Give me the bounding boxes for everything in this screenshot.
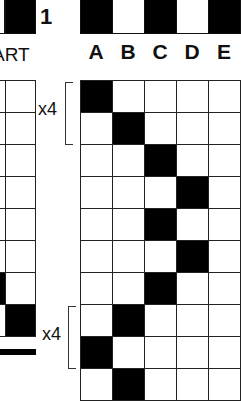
grid-cell: [80, 368, 113, 401]
grid-cell: [112, 240, 145, 273]
strip-cell-black: [80, 0, 113, 34]
column-label-e: E: [208, 40, 240, 64]
grid-cell: [80, 272, 113, 305]
grid-cell: [80, 112, 113, 145]
grid-cell: [208, 144, 241, 177]
grid-cell: [144, 80, 177, 113]
grid-cell: [112, 112, 145, 145]
grid-cell: [112, 272, 145, 305]
grid-cell: [112, 176, 145, 209]
grid-cell: [176, 240, 209, 273]
grid-cell: [80, 80, 113, 113]
grid-cell: [176, 176, 209, 209]
grid-cell: [176, 368, 209, 401]
column-label-c: C: [144, 40, 176, 64]
grid-cell: [5, 272, 36, 305]
column-label-d: D: [176, 40, 208, 64]
grid-cell: [208, 208, 241, 241]
grid-cell: [80, 176, 113, 209]
grid-cell: [112, 304, 145, 337]
grid-cell: [176, 144, 209, 177]
grid-cell: [144, 208, 177, 241]
thick-rule: [0, 349, 36, 355]
grid-cell: [208, 176, 241, 209]
grid-cell: [176, 336, 209, 369]
grid-cell: [208, 336, 241, 369]
grid-cell: [208, 272, 241, 305]
grid-cell: [176, 272, 209, 305]
grid-cell: [208, 368, 241, 401]
strip-number-label: 1: [40, 4, 52, 30]
repeat-label-bottom: x4: [42, 324, 61, 345]
grid-cell: [112, 80, 145, 113]
grid-cell: [208, 112, 241, 145]
grid-cell: [80, 208, 113, 241]
grid-cell: [5, 304, 36, 337]
grid-cell: [176, 112, 209, 145]
grid-cell: [144, 368, 177, 401]
repeat-bracket-bottom: [68, 306, 76, 369]
grid-cell: [144, 144, 177, 177]
grid-cell: [144, 112, 177, 145]
strip-cell-white: [176, 0, 209, 34]
grid-cell: [176, 304, 209, 337]
grid-cell: [176, 208, 209, 241]
grid-cell: [5, 208, 36, 241]
grid-cell: [5, 176, 36, 209]
grid-cell: [5, 144, 36, 177]
grid-cell: [5, 80, 36, 113]
column-label-a: A: [80, 40, 112, 64]
strip-cell-black: [5, 0, 36, 34]
grid-cell: [208, 240, 241, 273]
grid-cell: [144, 304, 177, 337]
strip-cell-black: [144, 0, 177, 34]
grid-cell: [112, 208, 145, 241]
grid-cell: [208, 80, 241, 113]
repeat-label-top: x4: [38, 99, 57, 120]
grid-cell: [112, 336, 145, 369]
grid-cell: [112, 144, 145, 177]
grid-cell: [80, 304, 113, 337]
grid-cell: [80, 240, 113, 273]
grid-cell: [112, 368, 145, 401]
grid-cell: [80, 336, 113, 369]
grid-cell: [144, 272, 177, 305]
grid-cell: [144, 336, 177, 369]
strip-cell-white: [112, 0, 145, 34]
grid-cell: [144, 240, 177, 273]
grid-cell: [80, 144, 113, 177]
grid-cell: [176, 80, 209, 113]
strip-cell-black: [208, 0, 241, 34]
grid-cell: [144, 176, 177, 209]
repeat-bracket-top: [65, 82, 73, 145]
grid-cell: [5, 112, 36, 145]
chart-label: ART: [0, 44, 30, 66]
grid-cell: [208, 304, 241, 337]
grid-cell: [5, 240, 36, 273]
column-label-b: B: [112, 40, 144, 64]
